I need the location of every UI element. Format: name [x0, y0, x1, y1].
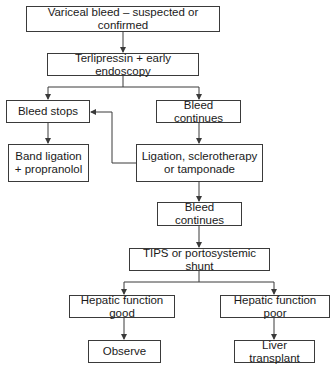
node-hepatic-function-good: Hepatic function good — [69, 295, 175, 318]
node-tips-shunt: TIPS or portosystemic shunt — [129, 248, 270, 271]
node-band-ligation-propranolol: Band ligation + propranolol — [8, 144, 89, 182]
node-hepatic-function-poor: Hepatic function poor — [220, 295, 330, 318]
node-ligation-sclerotherapy-tamponade: Ligation, sclerotherapy or tamponade — [136, 144, 263, 182]
node-liver-transplant: Liver transplant — [234, 340, 315, 363]
node-bleed-continues-1: Bleed continues — [156, 100, 241, 123]
node-observe: Observe — [88, 340, 161, 363]
node-bleed-stops: Bleed stops — [6, 100, 90, 123]
node-variceal-bleed: Variceal bleed – suspected or confirmed — [26, 6, 220, 32]
node-bleed-continues-2: Bleed continues — [157, 202, 242, 226]
node-terlipressin-endoscopy: Terlipressin + early endoscopy — [47, 53, 199, 76]
